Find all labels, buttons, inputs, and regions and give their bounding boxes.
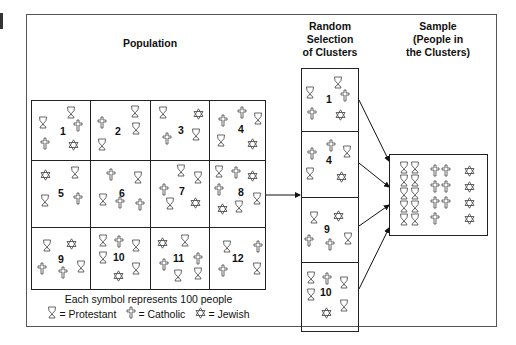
arrow-cluster4-to-sample — [359, 163, 389, 187]
arrow-cluster10-to-sample — [359, 228, 389, 289]
arrow-cluster9-to-sample — [359, 205, 389, 226]
arrows-layer — [0, 0, 516, 345]
arrow-cluster1-to-sample — [359, 100, 389, 161]
